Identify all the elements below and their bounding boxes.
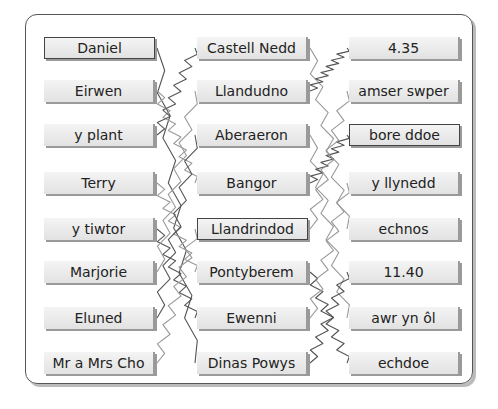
time-box[interactable]: echdoe [349, 352, 460, 374]
time-box[interactable]: awr yn ôl [349, 307, 460, 329]
connector-line [310, 48, 349, 91]
name-box[interactable]: Terry [44, 172, 155, 194]
connector-line [310, 48, 349, 229]
place-box[interactable]: Castell Nedd [197, 37, 308, 59]
time-box[interactable]: echnos [349, 218, 460, 240]
connector-lines [0, 0, 498, 409]
name-box[interactable]: Marjorie [44, 261, 155, 283]
connector-line [310, 272, 349, 363]
name-box[interactable]: Mr a Mrs Cho [44, 352, 155, 374]
place-box[interactable]: Bangor [197, 172, 308, 194]
place-box[interactable]: Llandrindod [197, 218, 308, 240]
connector-line [157, 48, 197, 363]
place-box[interactable]: Ewenni [197, 307, 308, 329]
time-box[interactable]: y llynedd [349, 172, 460, 194]
name-box[interactable]: Eluned [44, 307, 155, 329]
name-box[interactable]: y tiwtor [44, 218, 155, 240]
time-box[interactable]: 4.35 [349, 37, 460, 59]
time-box[interactable]: amser swper [349, 80, 460, 102]
place-box[interactable]: Aberaeron [197, 124, 308, 146]
place-box[interactable]: Llandudno [197, 80, 308, 102]
connector-line [310, 272, 349, 363]
connector-line [157, 48, 197, 135]
connector-line [310, 135, 349, 183]
time-box[interactable]: 11.40 [349, 261, 460, 283]
time-box[interactable]: bore ddoe [349, 124, 460, 146]
connector-line [157, 229, 197, 318]
place-box[interactable]: Pontyberem [197, 261, 308, 283]
name-box[interactable]: y plant [44, 124, 155, 146]
name-box[interactable]: Eirwen [44, 80, 155, 102]
name-box[interactable]: Daniel [44, 37, 155, 59]
place-box[interactable]: Dinas Powys [197, 352, 308, 374]
